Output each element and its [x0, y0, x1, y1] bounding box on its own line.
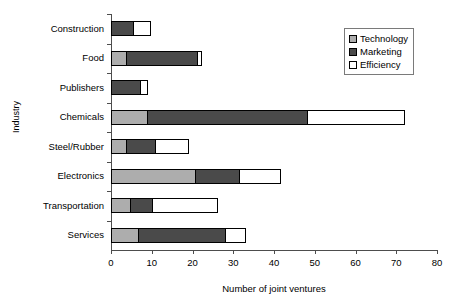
legend-item-technology[interactable]: Technology: [349, 32, 408, 45]
bar-segment-marketing[interactable]: [130, 198, 153, 213]
legend-item-marketing[interactable]: Marketing: [349, 45, 408, 58]
x-tick: [356, 250, 357, 254]
bar-transportation[interactable]: [111, 198, 437, 213]
x-tick: [193, 250, 194, 254]
x-tick: [315, 250, 316, 254]
x-tick-label: 60: [336, 257, 376, 268]
bar-steel-rubber[interactable]: [111, 139, 437, 154]
y-tick: [107, 14, 111, 15]
x-tick: [437, 250, 438, 254]
x-tick: [274, 250, 275, 254]
y-axis-label-chemicals: Chemicals: [6, 111, 104, 122]
x-tick: [396, 250, 397, 254]
y-axis-label-construction: Construction: [6, 23, 104, 34]
bar-segment-marketing[interactable]: [126, 139, 156, 154]
bar-segment-efficiency[interactable]: [307, 110, 406, 125]
y-axis-label-publishers: Publishers: [6, 82, 104, 93]
bar-segment-technology[interactable]: [111, 228, 139, 243]
legend-label: Technology: [360, 32, 408, 45]
x-tick-label: 70: [376, 257, 416, 268]
y-axis-label-food: Food: [6, 52, 104, 63]
bar-segment-efficiency[interactable]: [140, 80, 148, 95]
bar-segment-marketing[interactable]: [138, 228, 226, 243]
chart-legend: TechnologyMarketingEfficiency: [344, 28, 414, 75]
legend-label: Efficiency: [360, 58, 400, 71]
legend-item-efficiency[interactable]: Efficiency: [349, 58, 408, 71]
bar-segment-marketing[interactable]: [195, 169, 241, 184]
bar-segment-efficiency[interactable]: [133, 21, 150, 36]
legend-label: Marketing: [360, 45, 402, 58]
x-tick-label: 30: [213, 257, 253, 268]
bar-services[interactable]: [111, 228, 437, 243]
x-tick-label: 40: [254, 257, 294, 268]
y-tick: [107, 191, 111, 192]
y-tick: [107, 162, 111, 163]
bar-segment-technology[interactable]: [111, 169, 196, 184]
bar-segment-efficiency[interactable]: [197, 51, 202, 66]
bar-segment-technology[interactable]: [111, 198, 131, 213]
bar-segment-efficiency[interactable]: [152, 198, 218, 213]
legend-swatch-marketing-icon: [349, 48, 357, 56]
bar-segment-technology[interactable]: [111, 51, 127, 66]
x-tick-label: 0: [91, 257, 131, 268]
y-tick: [107, 103, 111, 104]
bar-segment-marketing[interactable]: [111, 80, 141, 95]
bar-segment-marketing[interactable]: [147, 110, 308, 125]
legend-swatch-technology-icon: [349, 35, 357, 43]
bar-segment-efficiency[interactable]: [155, 139, 189, 154]
bar-segment-efficiency[interactable]: [225, 228, 246, 243]
x-tick: [152, 250, 153, 254]
y-axis-line: [111, 14, 112, 250]
bar-segment-efficiency[interactable]: [239, 169, 281, 184]
x-tick-label: 10: [132, 257, 172, 268]
joint-ventures-bar-chart: Industry ConstructionFoodPublishersChemi…: [0, 0, 456, 308]
y-tick: [107, 221, 111, 222]
x-axis-title: Number of joint ventures: [111, 283, 437, 294]
legend-swatch-efficiency-icon: [349, 61, 357, 69]
bar-chemicals[interactable]: [111, 110, 437, 125]
y-axis-category-labels: ConstructionFoodPublishersChemicalsSteel…: [6, 14, 104, 250]
x-tick-label: 20: [173, 257, 213, 268]
bar-segment-marketing[interactable]: [126, 51, 197, 66]
x-tick-label: 80: [417, 257, 456, 268]
x-tick: [111, 250, 112, 254]
y-axis-label-services: Services: [6, 229, 104, 240]
x-tick-label: 50: [295, 257, 335, 268]
bar-segment-technology[interactable]: [111, 110, 148, 125]
bar-segment-marketing[interactable]: [111, 21, 134, 36]
y-tick: [107, 44, 111, 45]
y-tick: [107, 132, 111, 133]
y-tick: [107, 73, 111, 74]
bar-publishers[interactable]: [111, 80, 437, 95]
bar-electronics[interactable]: [111, 169, 437, 184]
x-tick: [233, 250, 234, 254]
y-axis-label-steel-rubber: Steel/Rubber: [6, 141, 104, 152]
y-axis-label-transportation: Transportation: [6, 200, 104, 211]
y-axis-label-electronics: Electronics: [6, 170, 104, 181]
bar-segment-technology[interactable]: [111, 139, 127, 154]
